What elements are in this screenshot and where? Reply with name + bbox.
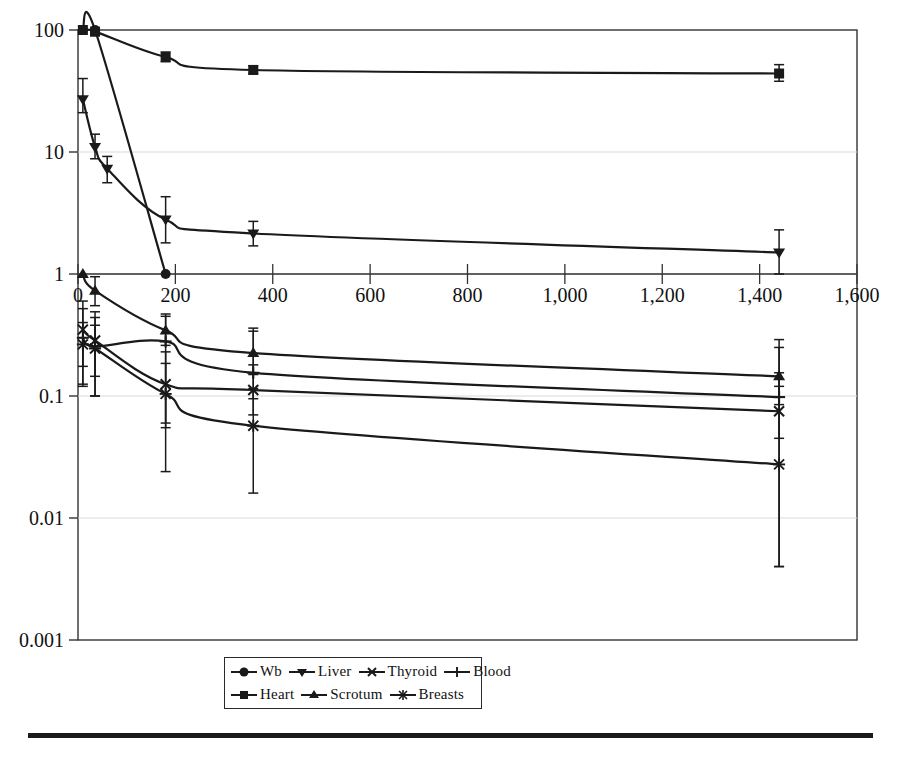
legend-label: Liver bbox=[318, 663, 351, 680]
legend-label: Heart bbox=[260, 686, 294, 703]
xtick-label-1200: 1,200 bbox=[640, 284, 685, 306]
legend-row-2: HeartScrotumBreasts bbox=[231, 683, 475, 706]
xtick-label-1400: 1,400 bbox=[737, 284, 782, 306]
series-heart bbox=[78, 25, 784, 81]
log-line-chart: 0.0010.010.111010002004006008001,0001,20… bbox=[0, 0, 901, 757]
legend-item-wb[interactable]: Wb bbox=[231, 663, 282, 680]
data-point-asterisk bbox=[773, 458, 785, 470]
series-line bbox=[83, 29, 779, 73]
legend-item-scrotum[interactable]: Scrotum bbox=[301, 686, 382, 703]
data-point-asterisk bbox=[77, 338, 89, 350]
ytick-label-0.001: 0.001 bbox=[19, 629, 64, 651]
ytick-label-0.01: 0.01 bbox=[29, 507, 64, 529]
data-point-plus bbox=[247, 367, 259, 379]
xtick-label-200: 200 bbox=[160, 284, 190, 306]
xtick-label-0: 0 bbox=[73, 284, 83, 306]
legend-item-blood[interactable]: Blood bbox=[444, 663, 511, 680]
legend-row-1: WbLiverThyroidBlood bbox=[231, 660, 475, 683]
legend-item-thyroid[interactable]: Thyroid bbox=[359, 663, 438, 680]
xtick-label-800: 800 bbox=[453, 284, 483, 306]
ytick-label-1: 1 bbox=[54, 263, 64, 285]
legend-label: Scrotum bbox=[330, 686, 382, 703]
data-point-triangle-down bbox=[89, 143, 101, 153]
xtick-label-400: 400 bbox=[258, 284, 288, 306]
series-line bbox=[83, 99, 779, 252]
chart-legend: WbLiverThyroidBlood HeartScrotumBreasts bbox=[224, 657, 482, 709]
series-blood bbox=[77, 301, 785, 566]
footer-rule bbox=[28, 733, 873, 738]
legend-marker-triangle-up-icon bbox=[301, 688, 327, 702]
xtick-label-1600: 1,600 bbox=[835, 284, 880, 306]
legend-item-heart[interactable]: Heart bbox=[231, 686, 294, 703]
legend-label: Blood bbox=[473, 663, 511, 680]
data-point-triangle-down bbox=[773, 249, 785, 259]
legend-item-breasts[interactable]: Breasts bbox=[390, 686, 465, 703]
xtick-label-600: 600 bbox=[355, 284, 385, 306]
ytick-label-10: 10 bbox=[44, 141, 64, 163]
series-line bbox=[83, 330, 779, 412]
legend-label: Thyroid bbox=[388, 663, 438, 680]
series-thyroid bbox=[78, 309, 784, 439]
legend-marker-plus-icon bbox=[444, 665, 470, 679]
ytick-label-100: 100 bbox=[34, 19, 64, 41]
legend-label: Breasts bbox=[419, 686, 465, 703]
data-point-square bbox=[248, 65, 258, 75]
legend-marker-x-cross-icon bbox=[359, 665, 385, 679]
plot-frame bbox=[78, 30, 857, 640]
legend-label: Wb bbox=[260, 663, 282, 680]
data-point-square bbox=[161, 52, 171, 62]
ytick-label-0.1: 0.1 bbox=[39, 385, 64, 407]
series-liver bbox=[77, 79, 785, 274]
error-bar bbox=[248, 389, 258, 494]
legend-item-liver[interactable]: Liver bbox=[289, 663, 351, 680]
legend-marker-circle-icon bbox=[231, 665, 257, 679]
data-point-square bbox=[774, 68, 784, 78]
data-point-circle bbox=[161, 269, 171, 279]
data-point-asterisk bbox=[160, 388, 172, 400]
series-breasts bbox=[77, 323, 785, 567]
data-point-square bbox=[90, 27, 100, 37]
data-point-asterisk bbox=[247, 420, 259, 432]
legend-marker-square-icon bbox=[231, 688, 257, 702]
legend-marker-asterisk-icon bbox=[390, 688, 416, 702]
data-point-asterisk bbox=[89, 343, 101, 355]
legend-marker-triangle-down-icon bbox=[289, 665, 315, 679]
figure-container: 0.0010.010.111010002004006008001,0001,20… bbox=[0, 0, 901, 757]
data-point-square bbox=[78, 25, 88, 35]
xtick-label-1000: 1,000 bbox=[542, 284, 587, 306]
